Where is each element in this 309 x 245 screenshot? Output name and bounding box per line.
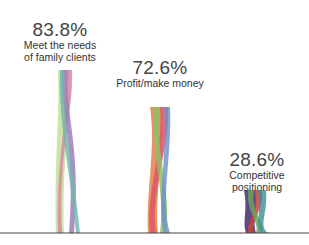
- bar-3-ribbons: [244, 190, 268, 233]
- bar-2-ribbons: [148, 107, 170, 233]
- bar-1-ribbons: [56, 70, 80, 233]
- chart-plot: [0, 0, 309, 245]
